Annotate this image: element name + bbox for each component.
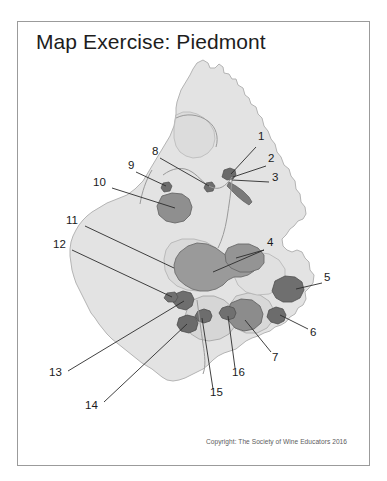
subregion-dark-south-centre (219, 306, 236, 320)
map-label-11: 11 (66, 214, 78, 226)
map-label-1: 1 (258, 130, 264, 142)
subregion-dark-south-small (195, 309, 212, 323)
map-label-13: 13 (49, 366, 62, 378)
map-label-16: 16 (232, 366, 245, 378)
map-label-4: 4 (267, 236, 273, 248)
map-label-9: 9 (128, 159, 134, 171)
map-label-12: 12 (53, 238, 66, 250)
subregion-dark-marker-9 (161, 182, 172, 192)
subregion-dark-east (272, 276, 304, 302)
subregion-dark-north-1 (222, 168, 236, 180)
map-label-6: 6 (310, 326, 316, 338)
map-label-2: 2 (268, 152, 274, 164)
map-label-5: 5 (324, 271, 330, 283)
map-label-14: 14 (85, 399, 98, 411)
map-label-10: 10 (93, 176, 106, 188)
map-label-3: 3 (272, 171, 278, 183)
map-exercise-page: Map Exercise: Piedmont (0, 0, 387, 481)
map-label-15: 15 (210, 386, 223, 398)
copyright-notice: Copyright: The Society of Wine Educators… (206, 437, 347, 446)
map-label-7: 7 (272, 351, 278, 363)
map-label-8: 8 (152, 145, 158, 157)
